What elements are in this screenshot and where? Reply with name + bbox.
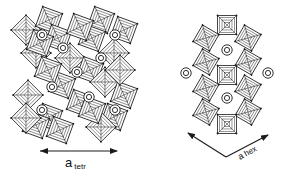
octahedron-icon	[192, 48, 220, 76]
a-hex-arrow-left	[188, 133, 226, 157]
octahedron-icon	[192, 24, 220, 52]
a-tetr-symbol: a	[65, 155, 72, 170]
cation-ring-icon	[72, 67, 82, 77]
cation-ring-icon	[58, 43, 68, 53]
cation-ring-icon	[222, 45, 232, 55]
cation-ring-icon	[84, 92, 94, 102]
octahedron-icon	[192, 98, 220, 126]
cation-ring-icon	[110, 30, 120, 40]
hexagonal-structure	[181, 15, 273, 135]
cation-ring-icon	[222, 93, 232, 103]
octahedron-icon	[192, 74, 220, 102]
tetragonal-structure	[10, 5, 139, 144]
a-tetr-label: atetr	[65, 153, 86, 171]
cation-ring-icon	[37, 30, 47, 40]
cation-ring-icon	[96, 53, 106, 63]
octahedron-icon	[234, 48, 262, 76]
octahedron-icon	[234, 74, 262, 102]
octahedron-icon	[217, 65, 238, 86]
cation-ring-icon	[110, 105, 120, 115]
cation-ring-icon	[47, 82, 57, 92]
octahedron-icon	[234, 98, 262, 126]
cation-ring-icon	[37, 105, 47, 115]
octahedron-icon	[217, 15, 238, 36]
octahedron-icon	[217, 114, 238, 135]
octahedron-icon	[234, 24, 262, 52]
a-tetr-subscript: tetr	[74, 162, 86, 171]
cation-ring-icon	[181, 68, 191, 78]
cation-ring-icon	[263, 68, 273, 78]
arrowhead-icon	[40, 148, 48, 154]
